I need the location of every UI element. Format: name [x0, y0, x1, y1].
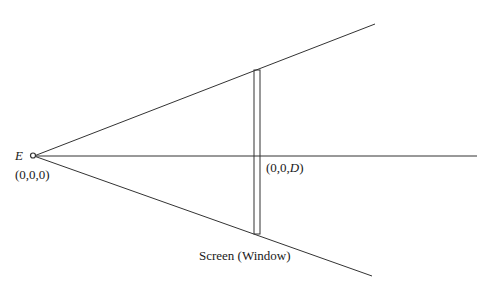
- coords-var: D: [290, 160, 299, 175]
- eye-point: [31, 153, 36, 158]
- eye-label: E: [15, 149, 23, 162]
- screen-window: [254, 70, 260, 234]
- coords-suffix: ): [299, 160, 303, 175]
- eye-coords: (0,0,0): [15, 168, 50, 181]
- coords-prefix: (0,0,: [266, 160, 290, 175]
- screen-label: Screen (Window): [199, 249, 291, 262]
- upper-frustum-ray: [34, 24, 375, 156]
- screen-center-coords: (0,0,D): [266, 161, 304, 174]
